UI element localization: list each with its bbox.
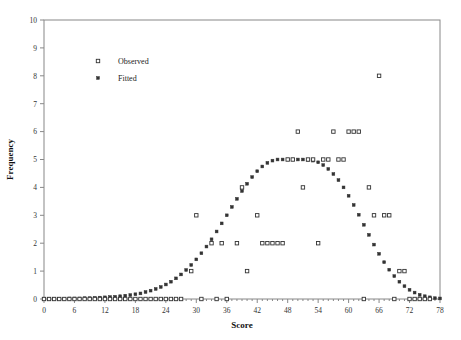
fitted-point [408,288,411,291]
observed-point [382,214,385,217]
fitted-point [403,285,406,288]
fitted-point [144,291,147,294]
observed-point [316,242,319,245]
x-tick-label: 60 [345,306,353,315]
observed-point [215,297,218,300]
observed-point [322,158,325,161]
observed-point [301,186,304,189]
observed-point [129,297,132,300]
fitted-point [185,269,188,272]
observed-point [169,297,172,300]
fitted-point [195,258,198,261]
observed-point [408,297,411,300]
y-axis-title: Frequency [5,139,15,180]
observed-point [68,297,71,300]
observed-point [73,297,76,300]
y-tick-label: 0 [33,295,37,304]
fitted-point [434,297,437,300]
observed-point [271,242,274,245]
fitted-point [296,158,299,161]
observed-point [164,297,167,300]
fitted-point [129,294,132,297]
fitted-point [164,283,167,286]
fitted-point [180,273,183,276]
x-tick-label: 6 [73,306,77,315]
observed-point [352,130,355,133]
observed-point [118,297,121,300]
legend-label-observed: Observed [118,57,149,66]
observed-point [291,158,294,161]
observed-point [413,297,416,300]
fitted-point [236,197,239,200]
fitted-point [418,293,421,296]
fitted-point [347,194,350,197]
x-tick-label: 18 [132,306,140,315]
fitted-point [215,230,218,233]
y-tick-label: 10 [30,16,38,25]
fitted-point [241,190,244,193]
fitted-point [205,245,208,248]
observed-point [139,297,142,300]
x-tick-label: 42 [253,306,261,315]
observed-point [357,130,360,133]
observed-point [245,269,248,272]
observed-point [240,186,243,189]
y-tick-label: 4 [33,183,37,192]
fitted-point [190,264,193,267]
observed-point [52,297,55,300]
fitted-point [170,280,173,283]
observed-point [423,297,426,300]
observed-point [144,297,147,300]
observed-point [220,242,223,245]
y-tick-label: 7 [33,100,37,109]
x-tick-label: 48 [284,306,292,315]
series-fitted-points [43,158,442,300]
legend-label-fitted: Fitted [118,74,137,83]
observed-point [58,297,61,300]
observed-point [195,214,198,217]
observed-point [200,297,203,300]
observed-point [306,158,309,161]
fitted-point [175,277,178,280]
fitted-point [200,252,203,255]
fitted-point [357,213,360,216]
fitted-point [220,222,223,225]
fitted-point [302,158,305,161]
fitted-point [352,204,355,207]
observed-point [47,297,50,300]
y-tick-label: 6 [33,127,37,136]
observed-point [108,297,111,300]
observed-point [174,297,177,300]
observed-point [190,269,193,272]
observed-point [154,297,157,300]
observed-point [261,242,264,245]
observed-point [342,158,345,161]
observed-point [286,158,289,161]
frequency-score-chart: 06121824303642485460667278 012345678910 … [0,0,461,340]
chart-canvas: 06121824303642485460667278 012345678910 … [0,0,461,340]
x-axis-title: Score [231,320,252,330]
fitted-point [368,233,371,236]
fitted-point [327,168,330,171]
observed-point [276,242,279,245]
fitted-point [413,291,416,294]
observed-point [337,158,340,161]
observed-point [388,214,391,217]
fitted-point [322,164,325,167]
fitted-point [281,158,284,161]
observed-point [398,269,401,272]
plot-frame [44,20,440,299]
fitted-point [246,182,249,185]
observed-point [159,297,162,300]
observed-point [332,130,335,133]
observed-point [134,297,137,300]
x-tick-label: 24 [162,306,170,315]
y-tick-label: 3 [33,211,37,220]
fitted-point [332,173,335,176]
fitted-point [342,186,345,189]
fitted-point [383,261,386,264]
y-tick-label: 9 [33,44,37,53]
observed-point [311,158,314,161]
observed-point [362,297,365,300]
observed-point [281,242,284,245]
